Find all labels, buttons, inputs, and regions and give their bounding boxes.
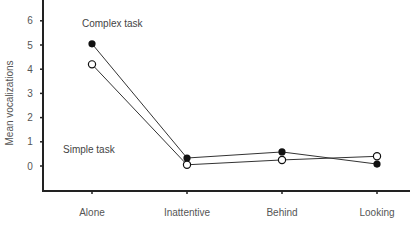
series-markers-simple-task [88,61,380,169]
y-tick-label: 1 [27,136,33,147]
open-circle-marker [373,153,380,160]
y-tick-label: 3 [27,88,33,99]
series-complex-task [92,44,377,164]
open-circle-marker [183,161,190,168]
y-tick-label: 2 [27,112,33,123]
y-tick-label: 6 [27,15,33,26]
annotation-complex-task: Complex task [82,18,144,29]
open-circle-marker [88,61,95,68]
y-tick-label: 0 [27,161,33,172]
x-category-label: Inattentive [164,207,211,218]
series-simple-task [92,64,377,164]
annotation-simple-task: Simple task [63,144,116,155]
y-tick-label: 4 [27,64,33,75]
x-category-label: Looking [359,207,394,218]
filled-circle-marker [88,40,95,47]
y-tick-label: 5 [27,40,33,51]
open-circle-marker [278,156,285,163]
filled-circle-marker [278,148,285,155]
series-line [92,44,377,164]
line-chart: 0123456AloneInattentiveBehindLookingMean… [0,0,418,227]
y-axis-label: Mean vocalizations [4,60,15,145]
x-category-label: Behind [266,207,297,218]
axes: 0123456AloneInattentiveBehindLooking [27,0,410,218]
series-line [92,64,377,164]
x-category-label: Alone [79,207,105,218]
series-markers-complex-task [88,40,380,167]
filled-circle-marker [183,154,190,161]
filled-circle-marker [373,160,380,167]
